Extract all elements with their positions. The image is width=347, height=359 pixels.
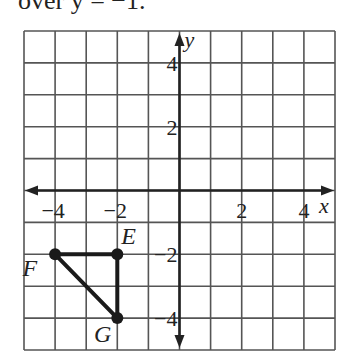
vertex-point-f bbox=[49, 248, 61, 260]
vertex-point-e bbox=[111, 248, 123, 260]
y-axis-up-arrow-icon bbox=[175, 33, 185, 46]
x-tick-label: 2 bbox=[236, 198, 247, 223]
vertex-label-e: E bbox=[120, 223, 136, 249]
coordinate-grid: xy−4−22442−2−4EFG bbox=[0, 0, 347, 359]
y-axis-label: y bbox=[183, 27, 195, 52]
x-tick-label: −4 bbox=[41, 198, 64, 223]
vertex-label-g: G bbox=[94, 321, 111, 347]
x-axis-label: x bbox=[318, 193, 329, 218]
y-tick-label: −4 bbox=[154, 306, 177, 331]
x-tick-label: −2 bbox=[104, 198, 127, 223]
y-tick-label: 2 bbox=[167, 115, 178, 140]
vertex-point-g bbox=[111, 312, 123, 324]
x-axis-left-arrow-icon bbox=[25, 186, 38, 196]
y-tick-label: −2 bbox=[154, 242, 177, 267]
x-tick-label: 4 bbox=[298, 198, 309, 223]
y-tick-label: 4 bbox=[167, 51, 178, 76]
vertex-label-f: F bbox=[21, 255, 37, 281]
y-axis-down-arrow-icon bbox=[175, 335, 185, 348]
